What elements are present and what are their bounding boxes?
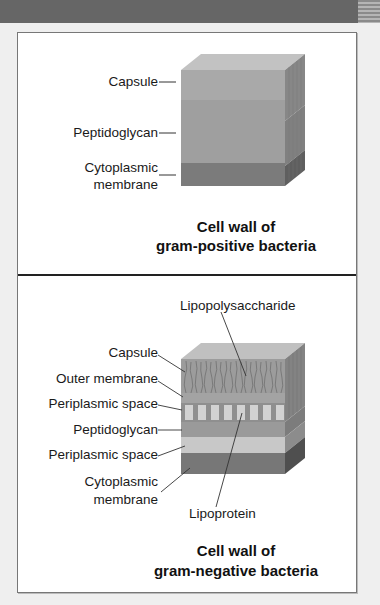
gn-cytoplasmic-layer [181, 453, 285, 474]
gp-label-cytoplasmic-line1: Cytoplasmic [84, 160, 158, 176]
gp-peptidoglycan-layer [181, 100, 285, 163]
gram-positive-cube [159, 54, 305, 186]
gp-top-face [181, 54, 305, 70]
gp-caption-line2: gram-positive bacteria [136, 236, 336, 255]
gp-label-capsule: Capsule [108, 74, 158, 90]
gn-top-face [181, 343, 305, 359]
gn-caption-line1: Cell wall of [146, 541, 326, 560]
gn-label-peptidoglycan: Peptidoglycan [73, 422, 158, 438]
gn-label-outer-membrane: Outer membrane [56, 371, 158, 387]
gn-label-cytoplasmic-line1: Cytoplasmic [84, 474, 158, 490]
gn-label-periplasmic-space-2: Periplasmic space [48, 447, 158, 463]
gn-label-capsule: Capsule [108, 345, 158, 361]
gn-label-periplasmic-space-1: Periplasmic space [48, 396, 158, 412]
gp-caption-line1: Cell wall of [146, 217, 326, 236]
gn-caption-line2: gram-negative bacteria [131, 561, 341, 580]
gn-outer-membrane-layer [181, 393, 285, 403]
gn-label-lipopolysaccharide: Lipopolysaccharide [180, 298, 296, 314]
gp-label-cytoplasmic-line2: membrane [93, 177, 158, 193]
gp-capsule-layer [181, 70, 285, 100]
gp-label-peptidoglycan: Peptidoglycan [73, 125, 158, 141]
gn-peptidoglycan-layer [181, 422, 285, 437]
gn-label-lipoprotein: Lipoprotein [189, 506, 256, 522]
gp-cytoplasmic-layer [181, 163, 285, 186]
gn-label-cytoplasmic-line2: membrane [93, 492, 158, 508]
gram-negative-cube [158, 312, 305, 507]
